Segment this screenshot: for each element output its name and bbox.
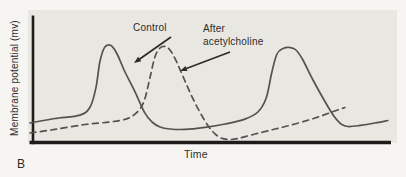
after-acetylcholine-label-line1: After (203, 22, 263, 35)
x-axis-label: Time (184, 148, 208, 160)
after-acetylcholine-annotation-label: After acetylcholine (203, 22, 263, 48)
control-annotation-label: Control (133, 22, 167, 33)
figure-panel: Membrane potential (mv) Control After ac… (0, 0, 406, 177)
after-acetylcholine-label-line2: acetylcholine (203, 35, 263, 48)
figure-letter: B (17, 157, 25, 171)
y-axis-label: Membrane potential (mv) (9, 20, 20, 136)
